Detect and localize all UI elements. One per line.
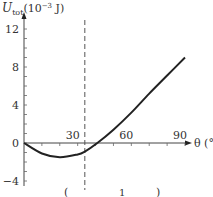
y-tick-label: 4 — [12, 99, 19, 112]
bottom-fragment: ( — [64, 186, 68, 197]
y-tick-label: −4 — [3, 175, 19, 188]
y-axis-label: Utot(10−3 J) — [2, 1, 64, 17]
u-tot-curve — [24, 58, 185, 158]
y-tick-label: 0 — [12, 137, 19, 150]
y-tick-label: 8 — [12, 61, 19, 74]
chart: −404812 306090 Utot(10−3 J) θ (°) ( 1 ) — [0, 0, 213, 197]
x-tick-label: 30 — [66, 129, 80, 142]
y-ticks: −404812 — [3, 23, 27, 188]
x-axis-label: θ (°) — [194, 137, 213, 150]
bottom-fragment: 1 — [119, 187, 125, 197]
y-tick-label: 12 — [5, 23, 19, 36]
bottom-fragment: ) — [156, 186, 160, 197]
x-tick-label: 90 — [173, 129, 187, 142]
x-tick-label: 60 — [119, 129, 133, 142]
